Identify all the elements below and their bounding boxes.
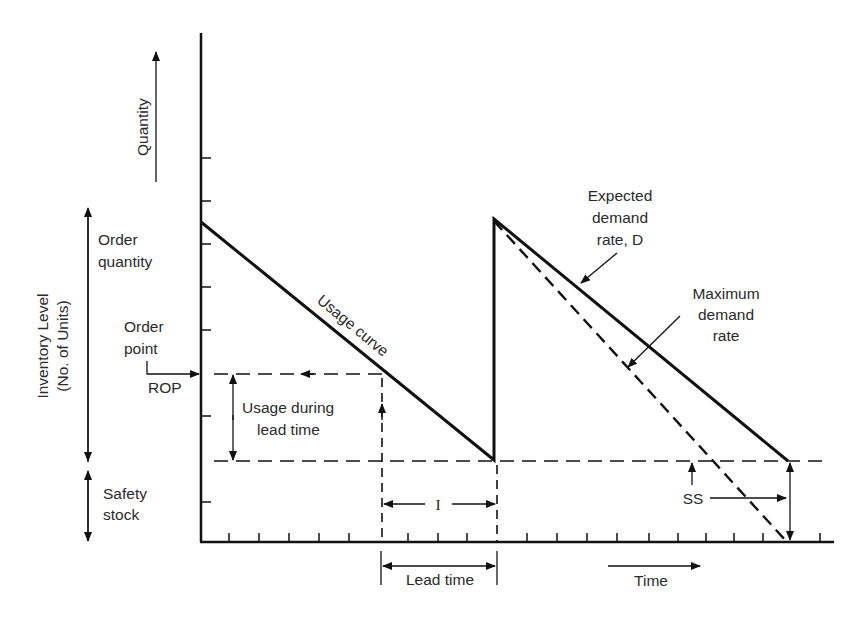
text-labels: Quantity Inventory Level (No. of Units) … <box>34 98 760 589</box>
order-point-pointer <box>147 361 199 374</box>
maximum-demand-label-2: demand <box>698 306 754 323</box>
usage-during-lead-time-label-2: lead time <box>257 421 320 438</box>
expected-demand-label-2: demand <box>592 209 648 226</box>
y-axis-ticks <box>201 158 211 502</box>
usage-during-lead-time-label: Usage during <box>242 399 334 416</box>
time-label: Time <box>634 572 668 589</box>
maximum-demand-label-3: rate <box>713 327 740 344</box>
ss-arrows <box>692 463 790 540</box>
maximum-demand-line <box>494 221 787 542</box>
safety-stock-label: Safety <box>103 485 147 502</box>
expected-demand-label-3: rate, D <box>597 231 644 248</box>
interval-label: I <box>435 496 440 513</box>
expected-demand-label: Expected <box>588 187 653 204</box>
inventory-level-label: Inventory Level <box>34 293 51 398</box>
order-quantity-label-2: quantity <box>98 253 153 270</box>
inventory-level-units-label: (No. of Units) <box>54 300 71 391</box>
safety-stock-label-2: stock <box>103 506 139 523</box>
order-point-label-2: point <box>124 340 158 357</box>
order-quantity-label: Order <box>98 231 138 248</box>
rop-label: ROP <box>148 379 182 396</box>
usage-curve-label: Usage curve <box>314 291 392 359</box>
lead-time-label: Lead time <box>406 571 474 588</box>
ss-label: SS <box>683 490 704 507</box>
quantity-label: Quantity <box>134 98 151 156</box>
order-point-label: Order <box>124 318 164 335</box>
maximum-demand-callout-arrow <box>628 316 680 367</box>
inventory-diagram: Quantity Inventory Level (No. of Units) … <box>0 0 858 617</box>
x-axis-ticks <box>229 533 820 542</box>
expected-demand-callout-arrow <box>581 253 617 283</box>
maximum-demand-label: Maximum <box>692 285 759 302</box>
